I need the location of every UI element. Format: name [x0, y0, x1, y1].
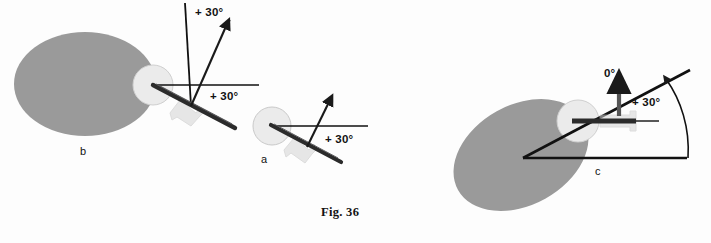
panel-label-c: c [595, 165, 601, 177]
figure-36: + 30° + 30° b + 30° a 0° + 30° c Fig. 36 [0, 0, 711, 243]
figure-caption: Fig. 36 [321, 205, 359, 220]
angle-label-c: + 30° [632, 96, 660, 108]
angle-label-b-side: + 30° [210, 90, 238, 102]
anteversion-arrow-tail-b [229, 20, 230, 21]
vertical-reference-line-b [185, 3, 191, 106]
angle-label-b-top: + 30° [195, 6, 223, 18]
rotation-arc-c [666, 79, 688, 158]
panel-a [253, 100, 368, 163]
zero-degree-label-c: 0° [604, 67, 615, 79]
panel-c [434, 70, 690, 234]
panel-label-b: b [80, 145, 86, 157]
panel-b [14, 3, 259, 136]
angle-label-a: + 30° [325, 133, 353, 145]
panel-label-a: a [261, 153, 267, 165]
